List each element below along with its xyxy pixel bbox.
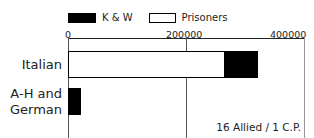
legend-swatch-kw — [68, 13, 96, 23]
legend-label-prisoners: Prisoners — [182, 12, 228, 23]
bar-italian-kw — [224, 51, 258, 78]
legend-swatch-prisoners — [149, 13, 176, 23]
bar-italian-prisoners — [68, 51, 226, 78]
category-label-ah-line1: A-H and — [10, 86, 62, 102]
legend: K & W Prisoners — [68, 12, 244, 23]
bar-ah-german-kw — [68, 88, 81, 115]
gridline-400000 — [304, 38, 305, 138]
annotation-ratio: 16 Allied / 1 C.P. — [216, 121, 301, 133]
category-label-ah-line2: German — [10, 102, 62, 118]
category-label-italian: Italian — [22, 57, 62, 73]
legend-label-kw: K & W — [102, 12, 133, 23]
